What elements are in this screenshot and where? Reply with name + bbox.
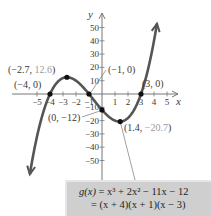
point-label-y-intercept: (0, −12) <box>48 112 80 124</box>
x-axis-label: x <box>175 95 181 107</box>
point-y-intercept <box>99 107 104 112</box>
x-tick-label: −5 <box>32 97 42 107</box>
point-label-relative-min: (1.4, −20.7) <box>124 122 171 134</box>
x-tick-label: 4 <box>152 97 157 107</box>
point-relative-max <box>64 75 69 80</box>
y-axis-label: y <box>87 8 93 20</box>
point-label-zero-1: (−1, 0) <box>108 64 135 76</box>
point-label-zero-4: (−4, 0) <box>14 79 41 91</box>
y-tick-label: 20 <box>90 62 100 72</box>
y-tick-label: −40 <box>85 142 100 152</box>
x-tick-label: 2 <box>126 97 131 107</box>
x-tick-label: 5 <box>165 97 170 107</box>
point-zero <box>86 91 91 96</box>
x-tick-label: −3 <box>58 97 68 107</box>
polynomial-expression: = x³ + 2x² − 11x − 12 <box>96 186 189 197</box>
y-tick-label: 10 <box>90 76 100 86</box>
equation-callout: g(x) = x³ + 2x² − 11x − 12 = (x + 4)(x +… <box>65 180 211 216</box>
function-name: g(x) <box>79 186 96 197</box>
y-tick-label: −30 <box>85 129 100 139</box>
y-tick-label: −20 <box>85 116 100 126</box>
x-tick-label: −2 <box>71 97 81 107</box>
point-label-zero3: (3, 0) <box>142 78 164 90</box>
point-zero <box>47 91 52 96</box>
equation-factored-form: = (x + 4)(x + 1)(x − 3) <box>91 199 186 210</box>
y-tick-label: 50 <box>90 23 100 33</box>
y-tick-label: −50 <box>85 156 100 166</box>
y-tick-label: 40 <box>90 36 100 46</box>
point-label-relative-max: (−2.7, 12.6) <box>8 64 55 76</box>
point-relative-min <box>118 119 123 124</box>
equation-standard-form: g(x) = x³ + 2x² − 11x − 12 <box>79 186 189 197</box>
y-tick-label: 30 <box>90 49 100 59</box>
x-tick-label: 1 <box>113 97 118 107</box>
point-zero <box>138 91 143 96</box>
